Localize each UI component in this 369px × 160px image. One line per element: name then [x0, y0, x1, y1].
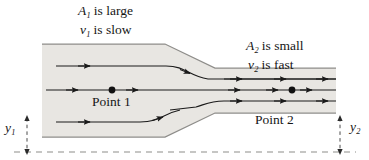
label-area-1-symbol: A — [78, 3, 86, 18]
label-area-2: A2 is small — [246, 39, 303, 53]
label-area-2-symbol: A — [246, 38, 254, 53]
label-velocity-1-text: is slow — [90, 22, 131, 37]
label-velocity-1-subscript: 1 — [86, 30, 90, 39]
figure-canvas: A1 is large v1 is slow A2 is small v2 is… — [0, 0, 369, 160]
label-point-1: Point 1 — [92, 95, 131, 109]
label-point-2: Point 2 — [255, 113, 294, 127]
label-velocity-2-text: is fast — [258, 57, 293, 72]
label-area-1-subscript: 1 — [86, 11, 90, 20]
label-area-2-subscript: 2 — [254, 46, 258, 55]
point-2-dot — [289, 87, 296, 94]
label-height-y2-subscript: 2 — [356, 127, 360, 136]
y2-arrow-top — [337, 115, 342, 121]
label-velocity-2-subscript: 2 — [254, 65, 258, 74]
venturi-diagram — [0, 0, 369, 160]
label-height-y2: y2 — [350, 120, 360, 134]
label-velocity-2: v2 is fast — [248, 58, 293, 72]
label-area-1: A1 is large — [78, 4, 133, 18]
label-height-y1: y1 — [5, 121, 15, 135]
y1-arrow-top — [24, 115, 29, 121]
point-1-dot — [109, 87, 116, 94]
label-velocity-1: v1 is slow — [80, 23, 131, 37]
label-height-y1-subscript: 1 — [11, 128, 15, 137]
label-area-2-text: is small — [258, 38, 303, 53]
label-area-1-text: is large — [90, 3, 133, 18]
